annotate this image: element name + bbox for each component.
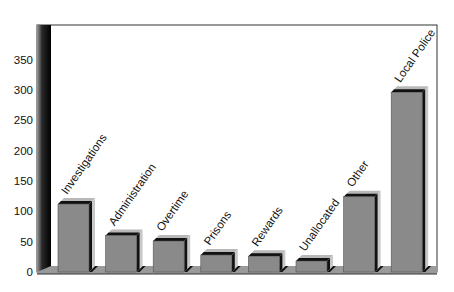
- y-axis-ticks: 050100150200250300350: [14, 54, 33, 278]
- bar: [248, 250, 288, 272]
- y-tick-label: 100: [14, 205, 33, 217]
- bar: [391, 86, 431, 272]
- y-tick-label: 200: [14, 145, 33, 157]
- bar: [296, 255, 336, 272]
- y-tick-label: 0: [27, 266, 33, 278]
- left-wall: [37, 25, 51, 272]
- bar: [106, 230, 146, 272]
- y-tick-label: 350: [14, 54, 33, 66]
- bar-chart: 050100150200250300350 InvestigationsAdmi…: [0, 0, 454, 292]
- y-tick-label: 300: [14, 84, 33, 96]
- y-tick-label: 50: [20, 236, 33, 248]
- bar: [344, 191, 384, 272]
- y-tick-label: 150: [14, 175, 33, 187]
- bar: [201, 249, 241, 272]
- bar: [58, 198, 98, 272]
- bar: [153, 235, 193, 272]
- y-tick-label: 250: [14, 114, 33, 126]
